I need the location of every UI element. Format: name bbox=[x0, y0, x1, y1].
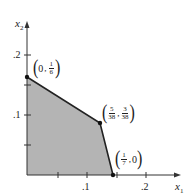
x-tick-label: .2 bbox=[141, 182, 149, 192]
vertex-marker bbox=[111, 173, 115, 177]
x-axis-arrow-icon bbox=[174, 173, 181, 178]
vertex-label-5-38-3-38: ( 538 , 338 ) bbox=[102, 105, 135, 121]
feasible-region-plot bbox=[0, 0, 193, 195]
y-tick-label: .1 bbox=[13, 110, 21, 120]
vertex-label-1-7-0: ( 17 , 0 ) bbox=[115, 151, 142, 167]
y-tick-label: .2 bbox=[13, 50, 21, 60]
x-tick-label: .1 bbox=[82, 182, 90, 192]
y-axis-arrow-icon bbox=[25, 21, 30, 28]
y-axis-label: x2 bbox=[15, 18, 23, 32]
vertex-label-0-1-6: ( 0 , 16 ) bbox=[33, 60, 60, 76]
x-axis-label: x1 bbox=[175, 181, 183, 195]
vertex-marker bbox=[25, 75, 29, 79]
